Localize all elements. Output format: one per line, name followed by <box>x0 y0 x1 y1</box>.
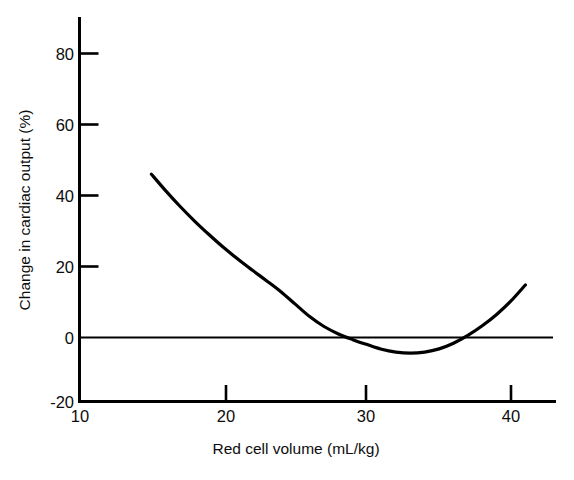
x-tick-label-40: 40 <box>502 407 520 425</box>
x-axis-title: Red cell volume (mL/kg) <box>212 440 379 457</box>
y-tick-label-80: 80 <box>56 45 74 63</box>
y-tick-label-0: 0 <box>65 329 74 347</box>
chart-canvas: 80 60 40 20 0 -20 10 20 30 40 Red cell v… <box>0 0 574 480</box>
figure-container: 80 60 40 20 0 -20 10 20 30 40 Red cell v… <box>0 0 574 480</box>
y-tick-label-60: 60 <box>56 116 74 134</box>
x-tick-label-30: 30 <box>357 407 375 425</box>
y-axis-title: Change in cardiac output (%) <box>16 110 33 311</box>
y-tick-label-20: 20 <box>56 258 74 276</box>
x-tick-label-20: 20 <box>217 407 235 425</box>
x-tick-label-10: 10 <box>71 407 89 425</box>
y-tick-label-40: 40 <box>56 187 74 205</box>
